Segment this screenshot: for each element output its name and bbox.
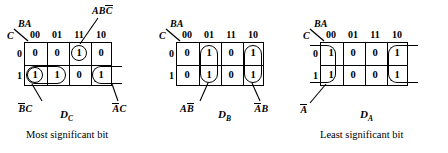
kmap-dc-annotation-abarc: AC xyxy=(112,103,126,114)
ann-text-plain: AB xyxy=(92,5,105,16)
ann-text-overbar: B xyxy=(187,103,194,114)
fn-letter: D xyxy=(218,108,226,120)
fn-subscript: C xyxy=(68,114,73,123)
fn-letter: D xyxy=(60,108,68,120)
kmap-db-leader-lines xyxy=(152,0,302,153)
ann-text-overbar: C xyxy=(105,5,112,16)
kmap-da-caption: Least significant bit xyxy=(320,129,403,140)
ann-text-plain: C xyxy=(25,103,32,114)
ann-text-plain: B xyxy=(261,103,268,114)
kmap-db-annotation-abbar: AB xyxy=(180,103,194,114)
kmap-dc: BA C 00 01 11 10 0 1 0 0 1 0 1 1 0 1 xyxy=(0,0,150,153)
kmap-dc-function-label: DC xyxy=(60,108,73,123)
kmap-dc-caption: Most significant bit xyxy=(26,129,108,140)
kmap-da-function-label: DA xyxy=(360,108,373,123)
ann-text-overbar: A xyxy=(300,104,307,115)
kmap-dc-annotation-bbarc: BC xyxy=(18,103,32,114)
fn-letter: D xyxy=(360,108,368,120)
fn-subscript: B xyxy=(226,114,231,123)
kmap-db-function-label: DB xyxy=(218,108,231,123)
kmap-db-annotation-abarb: AB xyxy=(254,103,268,114)
kmap-db: BA C 00 01 11 10 0 1 0 1 0 1 0 1 0 1 xyxy=(152,0,302,153)
kmap-da: BA C 00 01 11 10 0 1 1 0 0 1 1 0 0 1 xyxy=(296,0,446,153)
kmap-da-annotation-abar: A xyxy=(300,104,307,115)
fn-subscript: A xyxy=(368,114,373,123)
ann-text-plain: C xyxy=(119,103,126,114)
kmap-dc-annotation-abcbar: ABC xyxy=(92,5,113,16)
kmap-figure: BA C 00 01 11 10 0 1 0 0 1 0 1 1 0 1 xyxy=(0,0,448,153)
ann-text-plain: A xyxy=(180,103,187,114)
